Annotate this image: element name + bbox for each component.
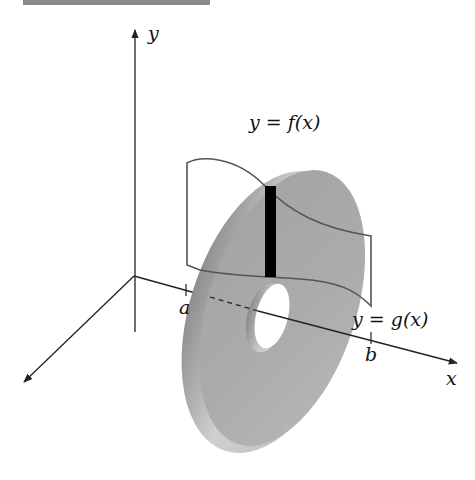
upper-curve-label: y = f(x) bbox=[249, 113, 320, 132]
solid-of-revolution-diagram: y y = f(x) a y = g(x) b x bbox=[0, 0, 475, 480]
lower-curve-label: y = g(x) bbox=[352, 310, 428, 329]
y-axis-label: y bbox=[148, 24, 159, 43]
x-axis-label: x bbox=[446, 369, 457, 388]
b-label: b bbox=[365, 345, 377, 364]
z-axis bbox=[24, 276, 134, 382]
a-label: a bbox=[179, 298, 190, 317]
representative-strip bbox=[265, 186, 276, 277]
diagram-canvas bbox=[0, 0, 475, 480]
